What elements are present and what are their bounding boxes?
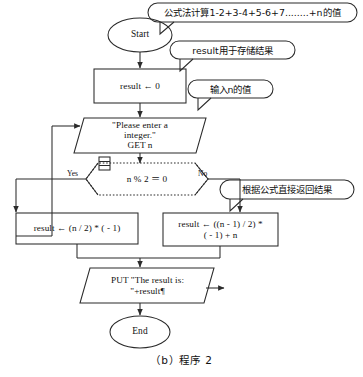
callout-input-n-label: 输入n的值 (188, 84, 273, 95)
callout-formula-label: 公式法计算1-2+3-4+5-6+7........+n的值 (148, 7, 357, 18)
decision-yes-label: Yes (67, 170, 78, 179)
init-node-shape (94, 69, 186, 103)
end-node-shape (110, 316, 170, 348)
decision-no-label: No (198, 170, 207, 179)
decision-node-shape (86, 163, 208, 195)
decision-left-edges (86, 163, 98, 195)
callout-return-result-tail (230, 199, 243, 211)
figure-caption: （b）程序 2 (0, 352, 363, 367)
process-odd-shape (163, 213, 278, 246)
callout-return-result-label: 根据公式直接返回结果 (220, 184, 354, 195)
process-even-shape (16, 213, 138, 244)
flowchart-program-2: Start result ← 0 "Please enter a integer… (0, 0, 363, 377)
input-node-shape (74, 118, 206, 153)
callout-result-var-label: result用于存储结果 (170, 45, 295, 56)
start-node-shape (108, 18, 172, 52)
decision-right-edges (195, 163, 208, 195)
callout-input-n-tail (198, 98, 211, 110)
output-node-shape (80, 268, 214, 303)
